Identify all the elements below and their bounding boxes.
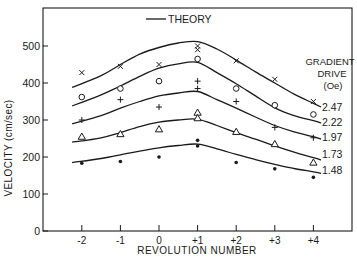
circle-marker — [79, 94, 85, 100]
dot-marker — [119, 160, 123, 164]
gradient-drive-title: GRADIENT DRIVE (Oe) — [305, 56, 354, 91]
gradient-title-line3: (Oe) — [324, 80, 343, 91]
cross-marker — [195, 47, 200, 52]
x-tick-label: +4 — [308, 235, 320, 246]
x-tick-label: +3 — [269, 235, 281, 246]
series-label-2.47: 2.47 — [322, 101, 343, 113]
plus-marker — [156, 104, 162, 110]
chart-figure: 0100200300400500 -2-10+1+2+3+4 THEORY GR… — [0, 0, 357, 261]
x-axis-label: REVOLUTION NUMBER — [137, 245, 257, 256]
gradient-title-line2: DRIVE — [317, 68, 346, 79]
y-axis: 0100200300400500 — [22, 40, 48, 237]
gradient-title-line1: GRADIENT — [305, 56, 354, 67]
cross-marker — [79, 70, 84, 75]
y-tick-label: 400 — [22, 77, 40, 89]
series-label-2.22: 2.22 — [322, 116, 343, 128]
x-tick-label: -1 — [116, 235, 125, 246]
legend-theory-label: THEORY — [168, 13, 212, 25]
triangle-marker — [78, 133, 85, 139]
x-tick-label: -2 — [77, 235, 86, 246]
x-axis: -2-10+1+2+3+4 — [77, 225, 319, 246]
y-axis-label: VELOCITY (cm/sec) — [3, 99, 14, 196]
dot-marker — [157, 155, 161, 159]
y-tick-label: 0 — [34, 225, 40, 237]
series-label-1.97: 1.97 — [322, 131, 343, 143]
cross-marker — [157, 62, 162, 67]
plus-marker — [233, 99, 239, 105]
dot-marker — [196, 144, 200, 148]
series-label-1.73: 1.73 — [322, 148, 343, 160]
triangle-marker — [271, 140, 278, 146]
plus-marker — [195, 78, 201, 84]
series-label-1.48: 1.48 — [322, 164, 343, 176]
cross-marker — [272, 77, 277, 82]
series-1.48-points — [80, 139, 315, 180]
dot-marker — [273, 167, 277, 171]
dot-marker — [80, 161, 84, 165]
y-tick-label: 100 — [22, 188, 40, 200]
series-value-labels: 2.472.221.971.731.48 — [322, 101, 343, 176]
circle-marker — [156, 78, 162, 84]
circle-marker — [272, 102, 278, 108]
plus-marker — [117, 97, 123, 103]
triangle-marker — [155, 126, 162, 132]
circle-marker — [118, 86, 124, 92]
legend: THEORY — [146, 13, 212, 25]
circle-marker — [311, 112, 317, 118]
y-tick-label: 500 — [22, 40, 40, 52]
dot-marker — [196, 139, 200, 143]
y-tick-label: 200 — [22, 151, 40, 163]
circle-marker — [233, 86, 239, 92]
dot-marker — [234, 161, 238, 165]
dot-marker — [312, 176, 316, 180]
velocity-chart: 0100200300400500 -2-10+1+2+3+4 THEORY GR… — [0, 0, 357, 261]
y-tick-label: 300 — [22, 114, 40, 126]
circle-marker — [195, 56, 201, 62]
triangle-marker — [310, 159, 317, 165]
series-2.47-points — [79, 44, 316, 105]
